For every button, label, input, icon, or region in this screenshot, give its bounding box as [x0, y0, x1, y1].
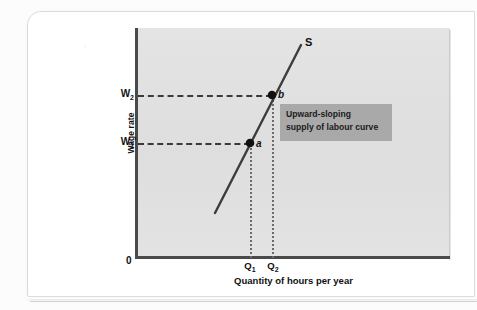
callout-line-2: supply of labour curve: [286, 121, 386, 134]
bottom-divider: [30, 301, 477, 302]
page-root: · 0 Wage rate Quantity of hours per year…: [0, 0, 477, 310]
data-point-a-label: a: [256, 138, 262, 149]
supply-curve-svg: [0, 0, 477, 310]
supply-curve-callout: Upward-sloping supply of labour curve: [280, 104, 392, 141]
callout-line-1: Upward-sloping: [286, 108, 386, 121]
supply-curve-label: S: [305, 36, 312, 48]
data-point-b-label: b: [278, 89, 284, 100]
supply-of-labour-chart: 0 Wage rate Quantity of hours per year W…: [0, 0, 477, 310]
data-point-a-marker: [246, 139, 255, 148]
data-point-b-marker: [268, 91, 277, 100]
